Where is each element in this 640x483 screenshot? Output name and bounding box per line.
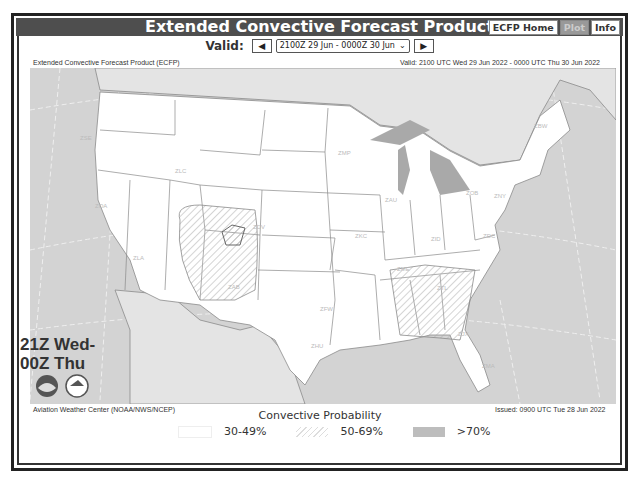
valid-time-selector: Valid: ◀ 2100Z 29 Jun - 0000Z 30 Jun⌄ ▶ xyxy=(14,37,625,54)
svg-text:ZFW: ZFW xyxy=(320,306,333,312)
legend-swatch-70-plus xyxy=(413,427,445,437)
svg-text:ZAU: ZAU xyxy=(385,197,397,203)
prob-50-69-southeast xyxy=(390,265,475,340)
svg-text:ZHU: ZHU xyxy=(311,343,323,349)
legend-label-70-plus: >70% xyxy=(457,425,491,438)
legend-title: Convective Probability xyxy=(0,409,640,422)
nav-buttons: ECFP Home Plot Info xyxy=(489,20,620,35)
svg-text:ZNY: ZNY xyxy=(494,193,506,199)
svg-text:ZOA: ZOA xyxy=(95,203,107,209)
forecast-period-label: 21Z Wed- 00Z Thu xyxy=(20,335,95,373)
svg-text:ZLA: ZLA xyxy=(133,255,144,261)
svg-text:ZBW: ZBW xyxy=(534,123,548,129)
svg-text:ZTL: ZTL xyxy=(437,285,448,291)
svg-text:ZJX: ZJX xyxy=(458,331,469,337)
ecfp-home-link[interactable]: ECFP Home xyxy=(489,20,558,35)
svg-text:ZDV: ZDV xyxy=(253,224,265,230)
valid-time-value: 2100Z 29 Jun - 0000Z 30 Jun xyxy=(280,40,395,52)
forecast-map: ZSEZLCZOAZLA ZDVZABZMPZAU ZKCZFWZHUZME Z… xyxy=(30,68,616,404)
legend-swatch-50-69 xyxy=(296,427,328,437)
forecast-period-line2: 00Z Thu xyxy=(20,354,95,373)
left-arrow-icon: ◀ xyxy=(258,41,265,51)
chevron-down-icon: ⌄ xyxy=(399,40,406,52)
svg-text:ZMP: ZMP xyxy=(338,150,351,156)
right-arrow-icon: ▶ xyxy=(420,41,427,51)
forecast-period-line1: 21Z Wed- xyxy=(20,335,95,354)
previous-time-button[interactable]: ◀ xyxy=(252,39,272,53)
next-time-button[interactable]: ▶ xyxy=(414,39,434,53)
svg-text:ZDC: ZDC xyxy=(483,233,496,239)
product-name: Extended Convective Forecast Product (EC… xyxy=(33,59,180,66)
svg-text:ZKC: ZKC xyxy=(355,233,368,239)
valid-label: Valid: xyxy=(205,39,243,53)
legend-swatch-30-49 xyxy=(178,426,212,438)
svg-text:ZOB: ZOB xyxy=(466,190,478,196)
valid-period-text: Valid: 2100 UTC Wed 29 Jun 2022 - 0000 U… xyxy=(400,59,600,66)
legend: 30-49% 50-69% >70% xyxy=(178,425,491,438)
svg-text:ZMA: ZMA xyxy=(482,363,495,369)
svg-text:ZME: ZME xyxy=(397,266,410,272)
svg-text:ZSE: ZSE xyxy=(80,135,92,141)
info-link[interactable]: Info xyxy=(591,20,620,35)
legend-label-50-69: 50-69% xyxy=(340,425,382,438)
plot-link[interactable]: Plot xyxy=(560,20,589,35)
title-bar: Extended Convective Forecast Product ECF… xyxy=(16,18,623,36)
map-svg: ZSEZLCZOAZLA ZDVZABZMPZAU ZKCZFWZHUZME Z… xyxy=(30,68,616,404)
legend-label-30-49: 30-49% xyxy=(224,425,266,438)
valid-time-dropdown[interactable]: 2100Z 29 Jun - 0000Z 30 Jun⌄ xyxy=(276,39,410,53)
svg-text:ZAB: ZAB xyxy=(228,284,240,290)
svg-text:ZID: ZID xyxy=(431,236,441,242)
svg-text:ZLC: ZLC xyxy=(175,168,187,174)
